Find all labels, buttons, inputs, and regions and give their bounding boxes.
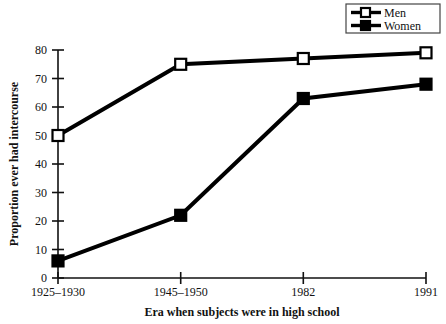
data-point-women-2 xyxy=(298,93,309,104)
y-axis-title: Proportion ever had intercourse xyxy=(7,81,21,246)
y-tick-label-0: 0 xyxy=(41,271,47,285)
series-line-men xyxy=(58,53,426,136)
y-tick-label-70: 70 xyxy=(35,72,47,86)
legend-label-men: Men xyxy=(384,6,406,20)
y-tick-label-40: 40 xyxy=(35,157,47,171)
x-axis-title: Era when subjects were in high school xyxy=(144,305,340,319)
legend-marker-women-icon xyxy=(361,21,370,30)
legend-marker-men-icon xyxy=(361,8,370,17)
x-tick-label-1: 1945–1950 xyxy=(154,285,208,299)
data-point-men-3 xyxy=(421,47,432,58)
legend-label-women: Women xyxy=(384,19,421,33)
chart-legend: Men Women xyxy=(346,4,440,33)
x-tick-label-2: 1982 xyxy=(291,285,315,299)
series-line-women xyxy=(58,84,426,261)
data-point-men-1 xyxy=(175,59,186,70)
y-tick-label-60: 60 xyxy=(35,100,47,114)
chart-canvas: 0 10 20 30 40 50 60 70 80 1925–1930 1945… xyxy=(0,0,446,324)
y-tick-label-20: 20 xyxy=(35,214,47,228)
y-tick-label-30: 30 xyxy=(35,186,47,200)
y-tick-label-80: 80 xyxy=(35,43,47,57)
data-point-women-3 xyxy=(421,79,432,90)
data-point-men-0 xyxy=(53,130,64,141)
data-point-men-2 xyxy=(298,53,309,64)
x-tick-label-0: 1925–1930 xyxy=(31,285,85,299)
x-tick-label-3: 1991 xyxy=(414,285,438,299)
data-point-women-1 xyxy=(175,210,186,221)
y-tick-label-10: 10 xyxy=(35,243,47,257)
line-chart: 0 10 20 30 40 50 60 70 80 1925–1930 1945… xyxy=(0,0,446,324)
legend-entry-women[interactable]: Women xyxy=(351,19,421,33)
y-tick-label-50: 50 xyxy=(35,129,47,143)
data-point-women-0 xyxy=(53,255,64,266)
